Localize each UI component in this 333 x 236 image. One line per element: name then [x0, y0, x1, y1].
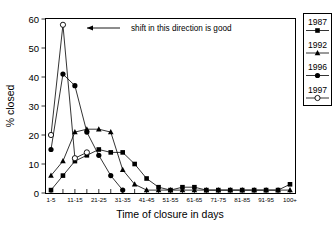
y-tick-label: 60 — [28, 14, 39, 25]
chart-figure: 60 50 40 30 20 10 0 % closed 1-511-1521-… — [0, 0, 333, 236]
annotation-label: shift in this direction is good — [131, 24, 232, 33]
data-point-1987 — [49, 188, 54, 193]
legend-marker-1987 — [315, 28, 320, 33]
legend-label-1997: 1997 — [308, 85, 327, 95]
data-point-1996 — [84, 130, 89, 135]
data-point-1996 — [96, 153, 101, 158]
data-point-1996 — [120, 188, 125, 193]
x-axis-title: Time of closure in days — [116, 208, 224, 220]
x-tick-label: 61-65 — [186, 196, 202, 203]
y-tick-label: 30 — [28, 101, 39, 112]
legend-marker-1996 — [315, 73, 320, 78]
y-tick-label: 40 — [28, 72, 39, 83]
data-point-1996 — [60, 72, 65, 77]
data-point-1987 — [288, 182, 293, 187]
x-tick-label: 31-35 — [115, 196, 131, 203]
data-point-1987 — [108, 150, 113, 155]
y-axis-title: % closed — [4, 85, 16, 128]
data-point-1987 — [120, 150, 125, 155]
legend-label-1992: 1992 — [308, 40, 327, 50]
x-tick-label: 100+ — [283, 196, 297, 203]
y-tick-label: 10 — [28, 159, 39, 170]
x-tick-label: 41-45 — [139, 196, 155, 203]
data-point-1997 — [60, 22, 65, 27]
y-tick-label: 50 — [28, 43, 39, 54]
data-point-1996 — [48, 147, 53, 152]
data-point-1997 — [72, 156, 77, 161]
data-point-1987 — [97, 147, 102, 152]
data-point-1987 — [61, 173, 66, 178]
x-tick-label: 11-15 — [67, 196, 83, 203]
legend-marker-1997 — [315, 95, 320, 100]
data-point-1987 — [132, 162, 137, 167]
x-tick-label: 71-75 — [210, 196, 226, 203]
x-tick-label: 21-25 — [91, 196, 107, 203]
data-point-1997 — [84, 150, 89, 155]
y-tick-label: 20 — [28, 130, 39, 141]
legend-label-1987: 1987 — [308, 17, 327, 27]
x-tick-label: 91-95 — [258, 196, 274, 203]
legend-label-1996: 1996 — [308, 62, 327, 72]
x-tick-label: 51-55 — [163, 196, 179, 203]
data-point-1997 — [48, 132, 53, 137]
x-tick-label: 81-85 — [234, 196, 250, 203]
data-point-1996 — [72, 83, 77, 88]
data-point-1996 — [108, 173, 113, 178]
data-point-1987 — [144, 176, 149, 181]
y-tick-label: 0 — [34, 188, 39, 199]
chart-svg: 60 50 40 30 20 10 0 % closed 1-511-1521-… — [0, 0, 333, 236]
x-tick-label: 1-5 — [47, 196, 57, 203]
